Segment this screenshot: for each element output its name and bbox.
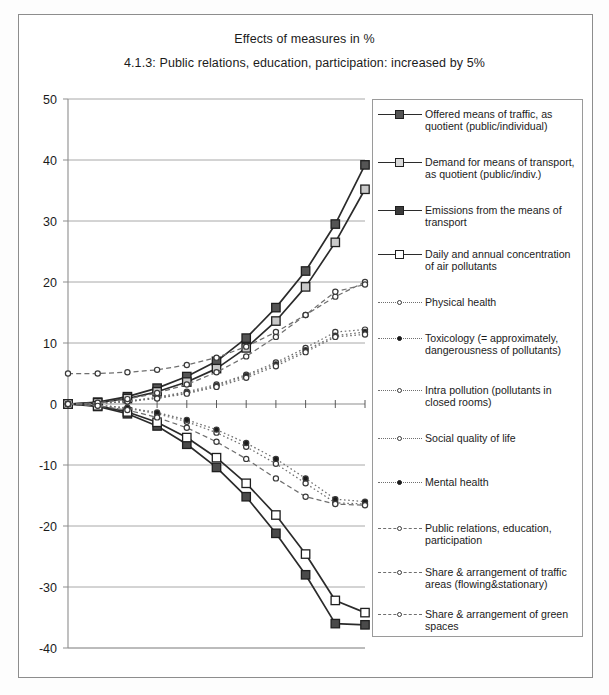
legend-marker-icon (377, 608, 423, 622)
legend-item-label: Emissions from the means of transport (423, 204, 584, 229)
legend-item-label: Public relations, education, participati… (423, 522, 584, 547)
data-point (184, 417, 189, 422)
series-line (68, 404, 365, 625)
y-tick-label: 40 (43, 154, 57, 168)
data-point (331, 596, 339, 604)
data-point (273, 456, 278, 461)
data-point (362, 282, 367, 287)
series-line (68, 404, 365, 502)
data-point (272, 529, 280, 537)
legend-item-label: Mental health (423, 476, 493, 488)
data-point (361, 621, 369, 629)
legend-marker-icon (377, 248, 423, 262)
data-point (272, 317, 280, 325)
data-point (331, 220, 339, 228)
data-point (214, 355, 219, 360)
y-tick-label: 10 (43, 337, 57, 351)
legend-marker-icon (377, 156, 423, 170)
y-tick-label: -20 (39, 520, 57, 534)
data-point (184, 391, 189, 396)
legend-point-sample (397, 570, 402, 575)
data-point (214, 384, 219, 389)
legend-item[interactable]: Mental health (373, 476, 584, 490)
data-point (331, 619, 339, 627)
legend-marker-icon (377, 522, 423, 536)
data-point (184, 382, 189, 387)
data-point (301, 571, 309, 579)
data-point (212, 463, 220, 471)
data-point (362, 332, 367, 337)
data-point (301, 550, 309, 558)
data-point (214, 427, 219, 432)
data-point (273, 364, 278, 369)
data-point (155, 390, 160, 395)
legend-item[interactable]: Toxicology (= approximately, dangerousne… (373, 332, 584, 357)
data-point (361, 161, 369, 169)
legend-item[interactable]: Demand for means of transport, as quotie… (373, 156, 584, 181)
legend-item[interactable]: Emissions from the means of transport (373, 204, 584, 229)
data-point (125, 370, 130, 375)
legend: Offered means of traffic, as quotient (p… (372, 99, 583, 637)
y-axis-tick-labels: 50403020100-10-20-30-40 (39, 93, 57, 656)
legend-item-label: Offered means of traffic, as quotient (p… (423, 108, 584, 133)
legend-item[interactable]: Offered means of traffic, as quotient (p… (373, 108, 584, 133)
data-point (361, 185, 369, 193)
legend-marker-icon (377, 204, 423, 218)
data-point (303, 350, 308, 355)
data-point (361, 608, 369, 616)
data-point (362, 503, 367, 508)
data-point (95, 403, 100, 408)
data-point (301, 267, 309, 275)
y-tick-label: -40 (39, 642, 57, 656)
legend-point-sample (395, 158, 404, 167)
legend-item-label: Social quality of life (423, 432, 520, 444)
data-point (155, 396, 160, 401)
legend-item-label: Share & arrangement of green spaces (423, 608, 584, 633)
legend-marker-icon (377, 108, 423, 122)
legend-marker-icon (377, 432, 423, 446)
y-tick-label: 30 (43, 215, 57, 229)
legend-point-sample (395, 206, 404, 215)
legend-item[interactable]: Social quality of life (373, 432, 584, 446)
data-point (242, 334, 250, 342)
data-point (273, 334, 278, 339)
legend-marker-icon (377, 332, 423, 346)
data-point (244, 456, 249, 461)
legend-marker-icon (377, 384, 423, 398)
y-tick-label: -30 (39, 581, 57, 595)
legend-marker-icon (377, 476, 423, 490)
data-point (95, 371, 100, 376)
data-point (214, 439, 219, 444)
data-point (272, 511, 280, 519)
y-tick-label: 0 (50, 398, 57, 412)
data-series (64, 161, 369, 629)
legend-item-label: Demand for means of transport, as quotie… (423, 156, 584, 181)
data-point (303, 494, 308, 499)
data-point (273, 476, 278, 481)
legend-point-sample (397, 612, 402, 617)
data-point (125, 408, 130, 413)
data-point (244, 440, 249, 445)
legend-item[interactable]: Share & arrangement of green spaces (373, 608, 584, 633)
legend-point-sample (397, 300, 402, 305)
y-tick-label: -10 (39, 459, 57, 473)
legend-item[interactable]: Intra pollution (pollutants in closed ro… (373, 384, 584, 409)
data-point (242, 493, 250, 501)
data-point (244, 375, 249, 380)
legend-point-sample (397, 436, 402, 441)
legend-item[interactable]: Daily and annual concentration of air po… (373, 248, 584, 273)
data-point (65, 401, 70, 406)
data-point (65, 371, 70, 376)
legend-item[interactable]: Share & arrangement of traffic areas (fl… (373, 566, 584, 591)
legend-item-label: Physical health (423, 296, 500, 308)
legend-marker-icon (377, 296, 423, 310)
series-8 (65, 401, 367, 504)
data-point (244, 344, 249, 349)
legend-item[interactable]: Physical health (373, 296, 584, 310)
y-tick-label: 20 (43, 276, 57, 290)
legend-marker-icon (377, 566, 423, 580)
legend-point-sample (397, 388, 402, 393)
legend-item[interactable]: Public relations, education, participati… (373, 522, 584, 547)
data-point (184, 362, 189, 367)
legend-point-sample (397, 480, 402, 485)
